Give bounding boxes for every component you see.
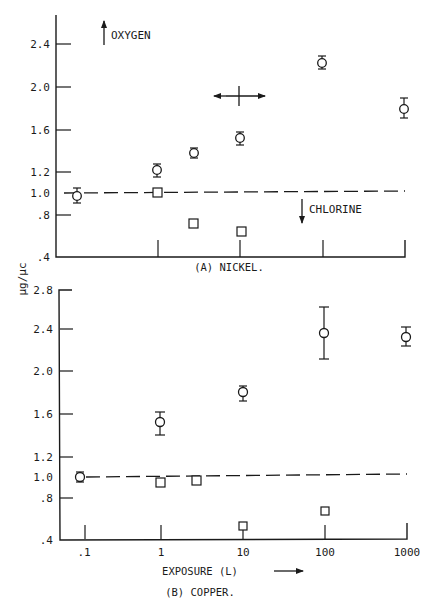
- ytick-label: .4: [40, 534, 54, 547]
- series-b-oxygen: [76, 307, 412, 482]
- ytick-label: 1.0: [30, 187, 50, 200]
- ytick-label: 2.8: [33, 284, 53, 297]
- data-point: [155, 412, 165, 435]
- ytick-label: 2.4: [30, 38, 50, 51]
- ytick-label: .4: [37, 251, 51, 264]
- xtick-label: 10: [236, 546, 249, 559]
- ytick-label: 2.0: [30, 81, 50, 94]
- ytick-label: 2.0: [33, 365, 53, 378]
- data-point: [239, 522, 247, 530]
- figure: 2.4 2.0 1.6 1.2 1.0 .8 .4 OXYGEN CHLORIN…: [0, 0, 429, 603]
- ytick-label: 1.6: [33, 408, 53, 421]
- data-point: [237, 227, 246, 236]
- ytick-label: 1.0: [33, 471, 53, 484]
- data-point: [153, 164, 162, 177]
- series-b-chlorine: [156, 476, 329, 530]
- data-point: [400, 98, 409, 118]
- data-point: [190, 148, 199, 158]
- data-point: [189, 219, 198, 228]
- double-arrow-icon: [214, 86, 265, 106]
- panel-b-copper: 2.8 2.4 2.0 1.6 1.2 1.0 .8 .4 .1 1 10 10…: [33, 284, 420, 598]
- panel-b-y-tick-labels: 2.8 2.4 2.0 1.6 1.2 1.0 .8 .4: [33, 284, 53, 547]
- data-point: [153, 188, 162, 197]
- panel-a-nickel: 2.4 2.0 1.6 1.2 1.0 .8 .4 OXYGEN CHLORIN…: [30, 15, 408, 273]
- oxygen-label: OXYGEN: [111, 29, 151, 42]
- data-point: [73, 188, 82, 203]
- y-axis-label: μg/μc: [16, 262, 29, 295]
- chlorine-label: CHLORINE: [309, 203, 362, 216]
- data-point: [236, 132, 245, 145]
- panel-b-x-tick-labels: .1 1 10 100 1000: [77, 546, 420, 559]
- xtick-label: 1000: [394, 546, 421, 559]
- data-point: [319, 307, 329, 359]
- data-point: [239, 386, 248, 401]
- ytick-label: 1.2: [33, 451, 53, 464]
- data-point: [318, 56, 327, 69]
- panel-b-axes: [59, 290, 407, 540]
- data-point: [76, 472, 85, 482]
- series-a-chlorine: [153, 188, 246, 236]
- xtick-label: 1: [158, 546, 165, 559]
- panel-a-y-tick-labels: 2.4 2.0 1.6 1.2 1.0 .8 .4: [30, 38, 50, 264]
- reference-line-1: [64, 191, 405, 193]
- reference-line-2: [86, 474, 407, 477]
- xtick-label: 100: [315, 546, 335, 559]
- panel-b-x-ticks: [85, 525, 325, 539]
- data-point: [192, 476, 201, 485]
- ytick-label: .8: [40, 492, 53, 505]
- xtick-label: .1: [77, 546, 90, 559]
- x-axis-label: EXPOSURE (L): [162, 565, 238, 577]
- series-a-oxygen: [73, 56, 409, 203]
- caption-a: (A) NICKEL.: [194, 261, 264, 273]
- panel-a-axes: [56, 15, 405, 257]
- data-point: [156, 478, 165, 487]
- data-point: [321, 507, 329, 515]
- ytick-label: .8: [37, 209, 50, 222]
- panel-a-x-ticks: [158, 240, 323, 257]
- ytick-label: 1.6: [30, 124, 50, 137]
- panel-a-y-ticks: [56, 44, 71, 215]
- data-point: [401, 327, 411, 346]
- caption-b: (B) COPPER.: [165, 586, 235, 598]
- ytick-label: 2.4: [33, 323, 53, 336]
- ytick-label: 1.2: [30, 166, 50, 179]
- panel-b-y-ticks: [60, 329, 73, 498]
